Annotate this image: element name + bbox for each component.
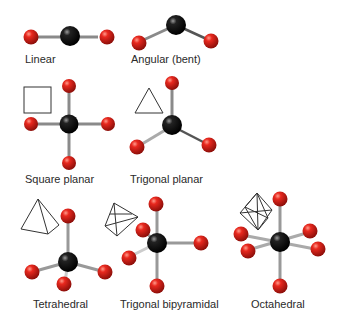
trigonal-bipyramidal-molecule bbox=[105, 197, 209, 294]
ligand-atom bbox=[62, 79, 76, 93]
central-atom bbox=[162, 115, 182, 135]
label-tetrahedral: Tetrahedral bbox=[33, 298, 88, 310]
triangle-outline-icon bbox=[135, 88, 163, 113]
bipyramid-outline-icon bbox=[105, 203, 138, 236]
ligand-atom bbox=[202, 138, 217, 153]
label-angular: Angular (bent) bbox=[131, 53, 201, 65]
square-outline-icon bbox=[24, 87, 51, 113]
ligand-atom bbox=[311, 242, 326, 257]
ligand-atom bbox=[234, 227, 249, 242]
octahedral-molecule bbox=[234, 192, 326, 294]
central-atom bbox=[58, 252, 78, 272]
ligand-atom bbox=[165, 76, 179, 90]
ligand-atom bbox=[62, 156, 76, 170]
ligand-atom bbox=[194, 236, 209, 251]
ligand-atom bbox=[130, 140, 145, 155]
ligand-atom bbox=[61, 209, 76, 224]
octahedron-outline-icon bbox=[240, 193, 272, 230]
ligand-atom bbox=[25, 265, 40, 280]
ligand-atom bbox=[204, 34, 219, 49]
tetrahedral-molecule bbox=[21, 199, 113, 292]
ligand-atom bbox=[241, 244, 256, 259]
ligand-atom bbox=[98, 265, 113, 280]
ligand-atom bbox=[136, 223, 151, 238]
ligand-atom bbox=[132, 36, 147, 51]
ligand-atom bbox=[57, 277, 72, 292]
central-atom bbox=[60, 26, 80, 46]
central-atom bbox=[60, 115, 79, 134]
square-planar-molecule bbox=[24, 79, 115, 170]
label-trigonal-bipyramidal: Trigonal bipyramidal bbox=[120, 298, 219, 310]
central-atom bbox=[270, 232, 290, 252]
label-octahedral: Octahedral bbox=[251, 298, 305, 310]
ligand-atom bbox=[150, 279, 165, 294]
ligand-atom bbox=[24, 117, 38, 131]
ligand-atom bbox=[273, 279, 288, 294]
ligand-atom bbox=[303, 224, 318, 239]
ligand-atom bbox=[24, 30, 39, 45]
ligand-atom bbox=[100, 30, 115, 45]
central-atom bbox=[147, 233, 167, 253]
geometry-diagram bbox=[0, 0, 342, 325]
tetrahedron-outline-icon bbox=[21, 199, 59, 234]
trigonal-planar-molecule bbox=[130, 76, 217, 155]
ligand-atom bbox=[149, 197, 164, 212]
central-atom bbox=[166, 15, 186, 35]
label-square-planar: Square planar bbox=[25, 173, 94, 185]
linear-molecule bbox=[24, 26, 115, 46]
ligand-atom bbox=[101, 117, 115, 131]
angular-molecule bbox=[132, 15, 219, 51]
ligand-atom bbox=[122, 251, 137, 266]
label-linear: Linear bbox=[25, 53, 56, 65]
ligand-atom bbox=[273, 192, 288, 207]
label-trigonal-planar: Trigonal planar bbox=[130, 173, 203, 185]
